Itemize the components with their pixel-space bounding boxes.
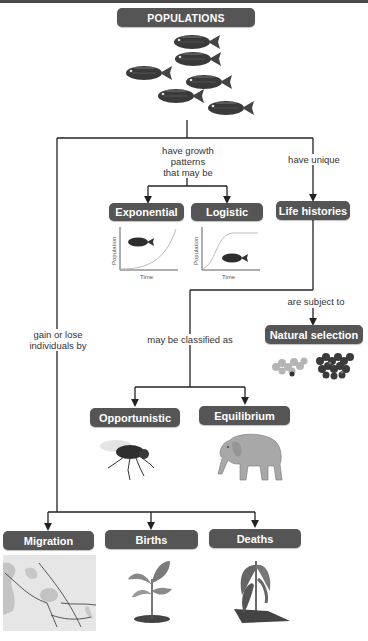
- migration-node: Migration: [3, 531, 94, 550]
- life-histories-node: Life histories: [276, 201, 350, 220]
- fish-icon: [222, 254, 248, 263]
- link-growth-patterns: have growth patterns that may be: [155, 145, 221, 178]
- populations-node: POPULATIONS: [117, 8, 255, 27]
- svg-text:Population: Population: [111, 237, 117, 265]
- natural-selection-node: Natural selection: [265, 325, 363, 344]
- link-gain-or-lose: gain or lose individuals by: [24, 329, 92, 351]
- exponential-node: Exponential: [109, 203, 184, 221]
- opportunistic-node: Opportunistic: [90, 408, 180, 427]
- births-node: Births: [105, 530, 198, 549]
- svg-text:Time: Time: [222, 274, 236, 280]
- migration-map-image: [3, 555, 96, 631]
- fish-icon: [128, 238, 154, 247]
- svg-text:Time: Time: [140, 274, 154, 280]
- link-have-unique: have unique: [285, 154, 343, 165]
- fly-image: [98, 432, 163, 482]
- logistic-graph: Population Time: [192, 223, 264, 283]
- logistic-node: Logistic: [191, 203, 263, 221]
- svg-text:Population: Population: [193, 237, 199, 265]
- link-are-subject-to: are subject to: [284, 296, 348, 307]
- elephant-image: [210, 430, 285, 485]
- seedling-image: [120, 555, 180, 627]
- exponential-graph: Population Time: [110, 223, 182, 283]
- beetles-image: [268, 347, 363, 382]
- link-may-be-classified: may be classified as: [146, 334, 234, 345]
- fish-school-image: [118, 30, 258, 120]
- wilted-plant-image: [228, 555, 293, 627]
- deaths-node: Deaths: [209, 529, 301, 548]
- equilibrium-node: Equilibrium: [199, 406, 290, 425]
